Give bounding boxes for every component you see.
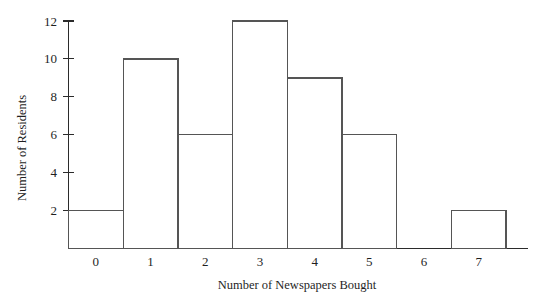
x-axis-tick-labels: 01234567 xyxy=(93,254,483,269)
bar-5 xyxy=(342,135,397,249)
chart-canvas: Number of Residents Number of Newspapers… xyxy=(0,0,549,303)
y-tick-label-2: 2 xyxy=(51,203,58,218)
bar-2 xyxy=(178,135,233,249)
x-tick-label-1: 1 xyxy=(147,254,154,269)
x-tick-label-0: 0 xyxy=(93,254,100,269)
x-tick-label-3: 3 xyxy=(257,254,264,269)
y-tick-label-4: 4 xyxy=(51,165,58,180)
bar-1 xyxy=(123,59,178,249)
y-axis-title: Number of Residents xyxy=(15,95,29,201)
bar-4 xyxy=(287,78,342,249)
x-axis-title: Number of Newspapers Bought xyxy=(218,278,377,292)
x-tick-label-2: 2 xyxy=(202,254,209,269)
y-tick-label-12: 12 xyxy=(44,14,57,29)
y-tick-label-6: 6 xyxy=(51,127,58,142)
bars-group xyxy=(69,21,507,249)
bar-3 xyxy=(233,21,288,249)
x-tick-label-6: 6 xyxy=(421,254,428,269)
x-tick-label-4: 4 xyxy=(311,254,318,269)
y-tick-label-10: 10 xyxy=(44,51,57,66)
x-tick-label-7: 7 xyxy=(476,254,483,269)
bar-0 xyxy=(69,211,124,249)
y-axis-tick-labels: 2 4 6 8 10 12 xyxy=(44,14,58,218)
x-tick-label-5: 5 xyxy=(366,254,373,269)
bar-7 xyxy=(451,211,506,249)
histogram-chart: Number of Residents Number of Newspapers… xyxy=(0,0,549,303)
y-tick-label-8: 8 xyxy=(51,89,58,104)
